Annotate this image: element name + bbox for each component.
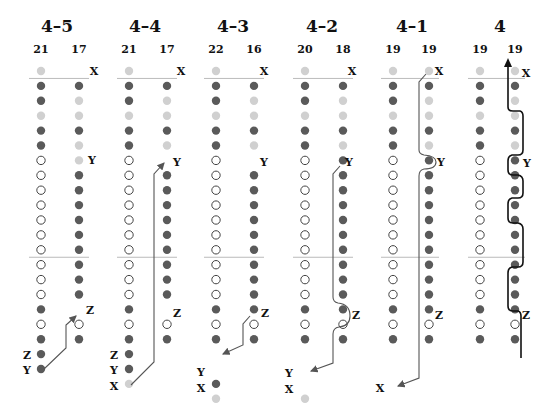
nucleotide-dot-right (425, 335, 433, 343)
strand-label-y: Y (523, 157, 531, 170)
nucleotide-dot-right (163, 112, 171, 120)
nucleotide-dot-right (250, 171, 258, 179)
nucleotide-dot-left (389, 275, 397, 283)
nucleotide-dot-left (212, 201, 220, 209)
nucleotide-dot-right (339, 112, 347, 120)
nucleotide-dot-right (75, 141, 83, 149)
nucleotide-dot-left (125, 246, 133, 254)
nucleotide-dot-left (212, 320, 220, 328)
nucleotide-dot-right (511, 231, 519, 239)
nucleotide-dot-left (476, 290, 484, 298)
nucleotide-dot-left (301, 186, 309, 194)
strand-label-y: Y (23, 364, 31, 377)
nucleotide-dot-left (212, 275, 220, 283)
nucleotide-dot-right (511, 126, 519, 134)
strand-label-y: Y (285, 367, 293, 380)
nucleotide-dot-right (75, 156, 83, 164)
nucleotide-dot-right (425, 82, 433, 90)
nucleotide-dot-right (511, 97, 519, 105)
nucleotide-dot-right (250, 216, 258, 224)
nucleotide-dot-right (425, 126, 433, 134)
nucleotide-dot-left (301, 82, 309, 90)
nucleotide-dot-left (476, 275, 484, 283)
nucleotide-dot-right (163, 201, 171, 209)
nucleotide-dot-left (476, 112, 484, 120)
nucleotide-dot-left (301, 171, 309, 179)
nucleotide-dot-left (37, 320, 45, 328)
nucleotide-dot-right (75, 216, 83, 224)
nucleotide-dot-left (389, 201, 397, 209)
strand-label-z: Z (173, 307, 181, 320)
nucleotide-dot-left (125, 305, 133, 313)
nucleotide-dot-left (476, 82, 484, 90)
nucleotide-dot-left (389, 290, 397, 298)
strand-label-x: X (197, 382, 206, 395)
nucleotide-dot-right (511, 305, 519, 313)
nucleotide-dot-left (301, 275, 309, 283)
nucleotide-dot-left (125, 126, 133, 134)
nucleotide-dot-right (425, 141, 433, 149)
nucleotide-dot-right (75, 275, 83, 283)
nucleotide-dot-right (75, 290, 83, 298)
nucleotide-dot-right (511, 335, 519, 343)
nucleotide-dot-left (301, 231, 309, 239)
nucleotide-dot-left (125, 216, 133, 224)
nucleotide-dot-right (250, 320, 258, 328)
nucleotide-dot-left (212, 97, 220, 105)
strand-label-x: X (522, 67, 531, 80)
nucleotide-dot-left (389, 97, 397, 105)
nucleotide-dot-right (425, 305, 433, 313)
nucleotide-dot-right (339, 97, 347, 105)
nucleotide-dot-left (125, 97, 133, 105)
nucleotide-dot-right (339, 275, 347, 283)
strand-label-x: X (260, 65, 269, 78)
nucleotide-dot-right (425, 275, 433, 283)
nucleotide-dot-left (389, 305, 397, 313)
nucleotide-dot-right (75, 126, 83, 134)
nucleotide-dot-left (125, 261, 133, 269)
nucleotide-dot-right (425, 156, 433, 164)
strand-label-z: Z (86, 304, 94, 317)
nucleotide-dot-right (75, 231, 83, 239)
strand-label-y: Y (197, 366, 205, 379)
nucleotide-dot-left (476, 320, 484, 328)
replication-path-arrow (508, 64, 523, 358)
nucleotide-dot-right (163, 335, 171, 343)
nucleotide-dot-right (250, 231, 258, 239)
nucleotide-dot-left (212, 186, 220, 194)
nucleotide-dot-left (389, 141, 397, 149)
nucleotide-dot-right (339, 201, 347, 209)
nucleotide-dot-left (37, 275, 45, 283)
replication-path-arrow (223, 316, 250, 354)
nucleotide-dot-left (389, 186, 397, 194)
nucleotide-dot-right (425, 201, 433, 209)
nucleotide-dot-left (37, 126, 45, 134)
nucleotide-dot-left (476, 141, 484, 149)
nucleotide-dot-left (389, 112, 397, 120)
nucleotide-dot-left (37, 365, 45, 373)
nucleotide-dot-left (37, 335, 45, 343)
nucleotide-dot-right (425, 171, 433, 179)
nucleotide-dot-right (511, 201, 519, 209)
nucleotide-dot-right (250, 201, 258, 209)
nucleotide-dot-left (37, 141, 45, 149)
nucleotide-dot-right (511, 186, 519, 194)
strand-label-z: Z (23, 349, 31, 362)
nucleotide-dot-left (476, 261, 484, 269)
nucleotide-dot-right (425, 246, 433, 254)
nucleotide-dot-left (301, 126, 309, 134)
nucleotide-dot-left (212, 112, 220, 120)
nucleotide-dot-right (163, 246, 171, 254)
nucleotide-dot-right (511, 320, 519, 328)
nucleotide-dot-right (75, 97, 83, 105)
nucleotide-dot-left (476, 67, 484, 75)
nucleotide-dot-right (250, 275, 258, 283)
strand-label-z: Z (110, 349, 118, 362)
nucleotide-dot-right (250, 246, 258, 254)
nucleotide-dot-right (250, 97, 258, 105)
nucleotide-dot-left (476, 335, 484, 343)
nucleotide-dot-left (125, 82, 133, 90)
nucleotide-dot-left (125, 171, 133, 179)
nucleotide-dot-right (75, 201, 83, 209)
nucleotide-dot-left (125, 275, 133, 283)
